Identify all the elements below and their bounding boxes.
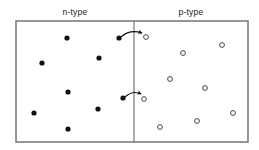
- electron-marker: [95, 106, 100, 111]
- electron-marker: [65, 126, 70, 131]
- junction-diagram-svg: [0, 0, 259, 150]
- pn-junction-figure: n-type p-type: [0, 0, 259, 150]
- electron-marker: [31, 110, 36, 115]
- electron-marker: [64, 35, 69, 40]
- junction-box: [16, 21, 248, 142]
- electron-marker: [65, 89, 70, 94]
- electron-marker: [116, 35, 121, 40]
- n-type-region-label: n-type: [16, 7, 134, 17]
- electron-marker: [120, 95, 125, 100]
- p-type-region-label: p-type: [134, 7, 248, 17]
- electron-marker: [39, 60, 44, 65]
- electron-marker: [96, 55, 101, 60]
